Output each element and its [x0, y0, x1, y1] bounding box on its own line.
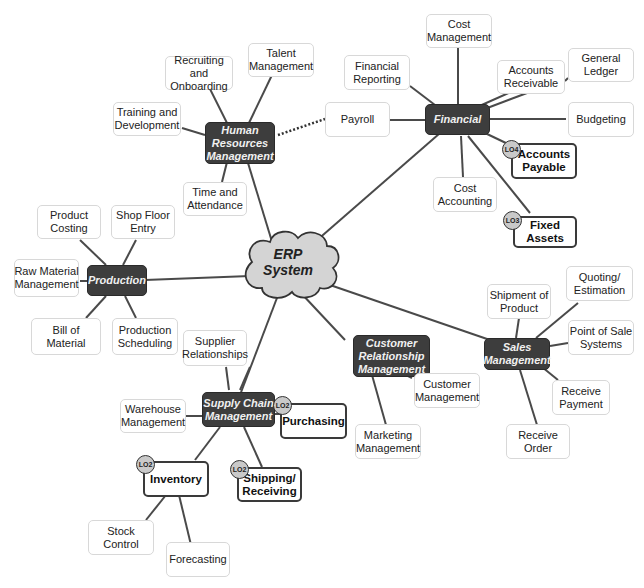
hub-production[interactable]: Production [87, 265, 147, 296]
node-training[interactable]: Training and Development [113, 102, 181, 136]
node-recruiting[interactable]: Recruiting and Onboarding [165, 56, 233, 90]
hub-sales[interactable]: Sales Management [484, 338, 550, 370]
lo2-badge-shipping: LO2 [230, 460, 249, 479]
node-receive-order[interactable]: Receive Order [506, 424, 570, 459]
node-product-costing[interactable]: Product Costing [37, 205, 101, 239]
hub-hr[interactable]: Human Resources Management [205, 122, 275, 164]
lo4-badge: LO4 [502, 140, 521, 159]
node-shipment-of-product[interactable]: Shipment of Product [487, 284, 551, 319]
node-time-attendance[interactable]: Time and Attendance [183, 182, 247, 216]
node-bill-of-material[interactable]: Bill of Material [31, 318, 101, 355]
node-talent[interactable]: Talent Management [248, 43, 314, 77]
lo2-badge-inventory: LO2 [136, 455, 155, 474]
node-forecasting[interactable]: Forecasting [166, 542, 230, 577]
lo3-badge: LO3 [503, 211, 522, 230]
node-stock-control[interactable]: Stock Control [88, 520, 154, 555]
node-marketing-management[interactable]: Marketing Management [355, 424, 421, 459]
hub-supply-chain[interactable]: Supply Chain Management [202, 392, 275, 427]
node-cost-accounting[interactable]: Cost Accounting [433, 177, 497, 212]
node-point-of-sale[interactable]: Point of Sale Systems [568, 320, 634, 355]
node-receive-payment[interactable]: Receive Payment [552, 380, 610, 415]
node-production-scheduling[interactable]: Production Scheduling [112, 318, 178, 355]
node-customer-management[interactable]: Customer Management [414, 373, 480, 408]
erp-system-center: ERP System [243, 246, 333, 278]
lo2-badge-purchasing: LO2 [273, 396, 292, 415]
node-cost-management[interactable]: Cost Management [426, 14, 492, 48]
node-fixed-assets[interactable]: Fixed Assets [513, 216, 577, 248]
hub-crm[interactable]: Customer Relationship Management [353, 335, 430, 377]
node-financial-reporting[interactable]: Financial Reporting [344, 55, 410, 90]
node-supplier-relationships[interactable]: Supplier Relationships [183, 330, 247, 366]
node-general-ledger[interactable]: General Ledger [568, 48, 634, 82]
node-quoting-estimation[interactable]: Quoting/ Estimation [566, 266, 633, 301]
hub-financial[interactable]: Financial [425, 104, 490, 135]
node-accounts-receivable[interactable]: Accounts Receivable [497, 60, 565, 94]
node-shop-floor-entry[interactable]: Shop Floor Entry [111, 205, 175, 239]
node-budgeting[interactable]: Budgeting [568, 102, 634, 137]
erp-mind-map: ERP System Human Resources Management Fi… [0, 0, 644, 588]
node-warehouse-management[interactable]: Warehouse Management [120, 399, 186, 433]
node-raw-material[interactable]: Raw Material Management [14, 259, 79, 297]
node-payroll[interactable]: Payroll [325, 102, 390, 137]
